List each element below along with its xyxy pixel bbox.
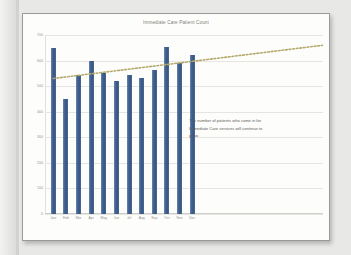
x-axis-tick-label: Apr bbox=[89, 216, 94, 220]
x-axis-tick-label: Aug bbox=[139, 216, 145, 220]
chart-title: Immediate Care Patient Count bbox=[23, 20, 329, 25]
bar bbox=[114, 81, 119, 214]
y-axis-tick-label: 0 bbox=[41, 212, 43, 216]
gridline bbox=[45, 214, 323, 215]
bar bbox=[177, 63, 182, 214]
y-axis-labels: 0100200300400500600700 bbox=[23, 35, 45, 214]
x-axis-tick-label: Jan bbox=[51, 216, 56, 220]
y-axis-tick-label: 600 bbox=[37, 59, 43, 63]
y-axis-tick-label: 500 bbox=[37, 84, 43, 88]
bar bbox=[89, 61, 94, 214]
photo-left-seam bbox=[16, 0, 19, 255]
x-axis-tick-label: Oct bbox=[164, 216, 169, 220]
x-axis-tick-label: Mar bbox=[76, 216, 82, 220]
chart-container: Immediate Care Patient Count 01002003004… bbox=[23, 14, 329, 240]
bar bbox=[139, 78, 144, 214]
y-axis-tick-label: 300 bbox=[37, 135, 43, 139]
x-axis-labels: JanFebMarAprMayJunJulAugSepOctNovDec bbox=[45, 216, 323, 226]
x-axis-tick-label: Sep bbox=[151, 216, 157, 220]
bar bbox=[127, 75, 132, 214]
photo-left-edge bbox=[0, 0, 16, 255]
x-axis-tick-label: Nov bbox=[177, 216, 183, 220]
x-axis-tick-label: May bbox=[101, 216, 107, 220]
x-axis-tick-label: Feb bbox=[63, 216, 69, 220]
plot-area bbox=[45, 35, 323, 214]
y-axis-tick-label: 200 bbox=[37, 161, 43, 165]
bar bbox=[101, 73, 106, 214]
y-axis-tick-label: 400 bbox=[37, 110, 43, 114]
x-axis-tick-label: Jun bbox=[114, 216, 119, 220]
bar bbox=[152, 70, 157, 214]
y-axis-tick-label: 100 bbox=[37, 186, 43, 190]
bar bbox=[76, 75, 81, 214]
bar-series bbox=[45, 35, 323, 214]
slide-page: Immediate Care Patient Count 01002003004… bbox=[22, 13, 330, 241]
chart-annotation: The number of patients who come in for I… bbox=[189, 117, 267, 140]
x-axis-tick-label: Dec bbox=[189, 216, 195, 220]
bar bbox=[164, 47, 169, 214]
y-axis-tick-label: 700 bbox=[37, 33, 43, 37]
bar bbox=[51, 48, 56, 214]
x-axis-tick-label: Jul bbox=[127, 216, 131, 220]
bar bbox=[63, 99, 68, 214]
